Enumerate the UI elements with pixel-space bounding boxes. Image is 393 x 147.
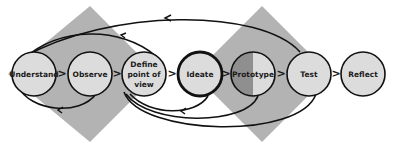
svg-text:Define: Define bbox=[130, 60, 157, 69]
svg-text:Reflect: Reflect bbox=[348, 70, 378, 79]
stage-observe: Observe bbox=[68, 52, 112, 96]
stage-ideate: Ideate bbox=[178, 52, 222, 96]
arrowhead-icon bbox=[121, 33, 126, 38]
svg-text:Ideate: Ideate bbox=[187, 70, 214, 79]
chevron-right-icon: > bbox=[112, 67, 121, 80]
chevron-right-icon: > bbox=[331, 67, 340, 80]
svg-text:Test: Test bbox=[300, 70, 318, 79]
svg-text:point of: point of bbox=[127, 70, 161, 79]
chevron-right-icon: > bbox=[57, 67, 66, 80]
stage-define-point-of-view: Define point of view bbox=[122, 52, 166, 96]
design-thinking-diagram: > > > > > > Understand Observe Define po… bbox=[0, 0, 393, 147]
svg-text:Prototype: Prototype bbox=[232, 70, 274, 79]
chevron-right-icon: > bbox=[276, 67, 285, 80]
svg-text:view: view bbox=[134, 80, 154, 89]
svg-text:Observe: Observe bbox=[73, 70, 108, 79]
chevron-right-icon: > bbox=[167, 67, 176, 80]
stage-test: Test bbox=[287, 52, 331, 96]
stage-prototype: Prototype bbox=[231, 52, 275, 96]
stage-reflect: Reflect bbox=[341, 52, 385, 96]
svg-text:Understand: Understand bbox=[9, 70, 58, 79]
arrowhead-icon bbox=[181, 108, 186, 114]
